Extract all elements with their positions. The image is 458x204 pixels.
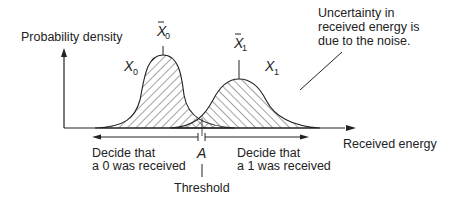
decide-zero-label: Decide that a 0 was received — [92, 146, 186, 173]
svg-text:Decide that: Decide that — [237, 146, 301, 160]
mean-label-x1: X 1 — [233, 34, 247, 53]
y-axis — [61, 48, 67, 128]
arrow-right-icon — [300, 135, 309, 140]
svg-text:1: 1 — [242, 43, 247, 53]
svg-text:due to the noise.: due to the noise. — [318, 34, 410, 48]
arrow-left-icon — [92, 135, 101, 140]
leader-line — [300, 52, 342, 90]
svg-text:a 1 was received: a 1 was received — [237, 159, 331, 173]
x-axis-label: Received energy — [343, 137, 438, 151]
svg-text:Decide that: Decide that — [92, 146, 156, 160]
decide-zero-arrow — [92, 133, 198, 141]
noise-annotation: Uncertainty in received energy is due to… — [300, 6, 419, 90]
svg-text:1: 1 — [274, 67, 279, 77]
curve-label-x1: X 1 — [264, 58, 279, 77]
svg-text:received energy is: received energy is — [318, 20, 419, 34]
probability-density-diagram: Probability density Received energy X 0 … — [0, 0, 458, 204]
decide-one-label: Decide that a 1 was received — [237, 146, 331, 173]
threshold-label: Threshold — [174, 181, 230, 195]
mean-label-x0: X 0 — [156, 22, 170, 41]
decide-one-arrow — [205, 133, 309, 141]
arrow-up-icon — [61, 48, 67, 57]
curve-label-x0: X 0 — [123, 58, 138, 77]
y-axis-label: Probability density — [21, 30, 123, 44]
svg-text:a 0 was received: a 0 was received — [92, 159, 186, 173]
svg-text:0: 0 — [165, 31, 170, 41]
threshold-symbol: A — [196, 145, 206, 161]
svg-text:Uncertainty in: Uncertainty in — [318, 6, 394, 20]
arrow-right-icon — [346, 125, 356, 131]
svg-text:0: 0 — [133, 67, 138, 77]
